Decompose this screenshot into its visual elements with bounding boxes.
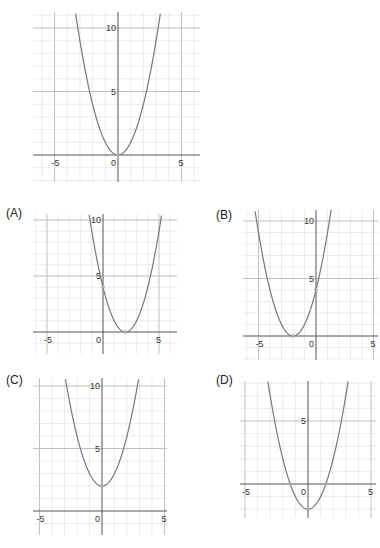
x-tick-label: -5 [242, 487, 250, 497]
x-tick-label: 0 [111, 158, 116, 168]
chart-C: -505510 [33, 378, 167, 535]
x-tick-label: 0 [95, 514, 100, 524]
y-tick-label: 10 [106, 23, 116, 33]
marked-point [291, 334, 295, 338]
x-tick-label: 0 [96, 335, 101, 345]
chart-D: -5055 [240, 381, 376, 518]
chart-A: -505510 [33, 214, 177, 354]
x-tick-label: 0 [301, 487, 306, 497]
x-tick-label: 0 [309, 339, 314, 349]
x-tick-label: 5 [368, 487, 373, 497]
marked-point [288, 482, 292, 486]
y-tick-label: 5 [111, 87, 116, 97]
x-tick-label: 5 [156, 335, 161, 345]
x-tick-label: -5 [44, 335, 52, 345]
y-tick-label: 5 [309, 274, 314, 284]
x-tick-label: 5 [162, 514, 167, 524]
grid [243, 210, 378, 360]
x-tick-label: 5 [179, 158, 184, 168]
x-tick-label: -5 [37, 514, 45, 524]
marked-point [100, 484, 104, 488]
plots-svg: -505510-505510-505510-505510-5055 [0, 0, 380, 548]
marked-point [124, 330, 128, 334]
y-tick-label: 5 [301, 416, 306, 426]
y-tick-label: 5 [95, 444, 100, 454]
marked-point [324, 482, 328, 486]
grid [33, 214, 177, 354]
x-tick-label: -5 [256, 339, 264, 349]
grid [33, 12, 200, 182]
marked-point [314, 288, 318, 292]
x-tick-label: -5 [52, 158, 60, 168]
y-tick-label: 10 [90, 381, 100, 391]
x-tick-label: 5 [371, 339, 376, 349]
y-tick-label: 10 [91, 215, 101, 225]
marked-point [306, 507, 310, 511]
chart-B: -505510 [243, 210, 378, 360]
y-tick-label: 10 [304, 216, 314, 226]
marked-point [101, 285, 105, 289]
marked-point [116, 153, 120, 157]
chart-original: -505510 [33, 12, 200, 182]
